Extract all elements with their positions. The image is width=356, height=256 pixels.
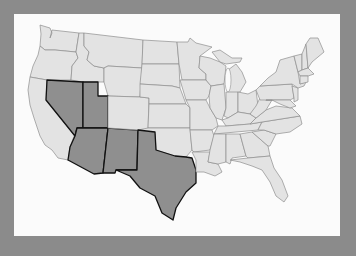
state-utah[interactable] (83, 82, 108, 128)
state-maine (306, 38, 324, 68)
state-wyoming (104, 66, 142, 97)
state-iowa (180, 80, 211, 100)
us-map (0, 0, 356, 256)
state-kansas (148, 104, 190, 128)
state-montana (84, 33, 143, 68)
state-connecticut (300, 76, 308, 84)
state-florida (230, 156, 288, 202)
state-colorado (108, 96, 149, 131)
state-north-dakota (142, 40, 179, 64)
state-new-mexico[interactable] (103, 128, 138, 173)
state-pennsylvania (256, 84, 294, 100)
state-washington (40, 25, 79, 52)
lake-michigan (225, 68, 231, 92)
